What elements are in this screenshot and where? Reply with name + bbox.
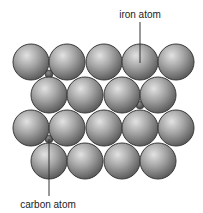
iron-atom — [49, 44, 85, 80]
carbon-atom-label: carbon atom — [20, 199, 76, 211]
iron-atom — [140, 77, 176, 113]
iron-atom — [13, 110, 49, 146]
iron-carbon-lattice-diagram — [0, 0, 203, 213]
iron-atoms — [13, 44, 194, 179]
iron-atom — [158, 110, 194, 146]
iron-atom — [122, 110, 158, 146]
iron-atom — [67, 143, 103, 179]
iron-atom — [86, 44, 122, 80]
iron-atom — [140, 143, 176, 179]
iron-atom — [104, 77, 140, 113]
iron-atom — [49, 110, 85, 146]
iron-atom — [31, 77, 67, 113]
iron-atom-label: iron atom — [119, 9, 161, 21]
iron-atom — [104, 143, 140, 179]
iron-atom — [67, 77, 103, 113]
iron-atom — [13, 44, 49, 80]
iron-atom — [86, 110, 122, 146]
iron-atom — [158, 44, 194, 80]
